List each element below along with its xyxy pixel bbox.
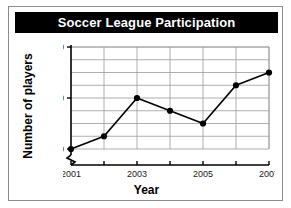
chart-frame: Soccer League Participation Number of pl…: [8, 6, 283, 201]
y-axis-title: Number of players: [21, 53, 35, 158]
title-banner: Soccer League Participation: [15, 12, 278, 33]
line-chart-svg: 2003004002001200320052007: [63, 37, 275, 177]
x-axis-title: Year: [9, 183, 284, 197]
svg-text:200: 200: [63, 144, 64, 154]
axis-ticks: [67, 47, 269, 165]
svg-text:300: 300: [63, 93, 64, 103]
svg-text:2007: 2007: [259, 169, 275, 177]
plot-area: 2003004002001200320052007: [63, 37, 275, 177]
svg-text:400: 400: [63, 42, 64, 52]
chart-title: Soccer League Participation: [58, 15, 236, 30]
svg-text:2005: 2005: [193, 169, 213, 177]
svg-text:2003: 2003: [127, 169, 147, 177]
y-axis-title-container: Number of players: [17, 41, 39, 171]
gridlines: [71, 47, 269, 149]
svg-text:2001: 2001: [63, 169, 81, 177]
